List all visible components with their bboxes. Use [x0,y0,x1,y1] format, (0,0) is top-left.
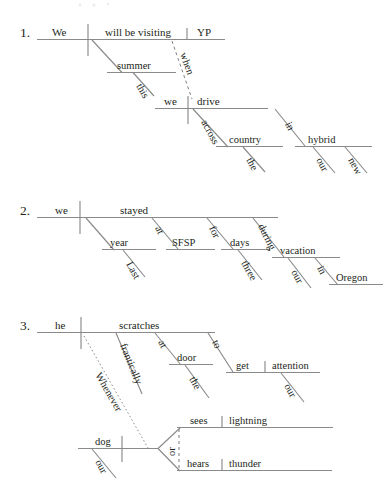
d3-obj-door: door [177,352,197,363]
d3-mod-the: the [187,375,203,392]
d2-mod-our: our [289,268,306,286]
d1-mod-this: this [134,82,151,101]
d2-prep-during: during [256,222,278,252]
sentence-diagrams-canvas: 1. We will be visiting YP summer this wh… [0,0,390,498]
d2-obj-sfsp: SFSP [172,237,196,248]
d3-mod-frantically: frantically [118,342,145,387]
d2-verb: stayed [120,204,149,216]
d1-mod-our: our [314,156,331,174]
d3-conjunction-whenever: Whenever [93,371,124,414]
diagram-3: 3. he scratches frantically at door the … [20,317,333,478]
d3-inf-verb: get [236,360,249,371]
d3-branch-a-verb: sees [190,415,208,426]
d1-conjunction-when: when [178,51,196,77]
d3-sub-subject: dog [95,436,112,447]
d1-verb: will be visiting [105,26,172,38]
d2-prep-at: at [153,224,166,236]
d2-obj-year: year [110,237,129,248]
d3-verb: scratches [119,319,159,331]
d1-mod-new: new [346,156,364,177]
d3-coord-conj: or [166,447,177,456]
d1-mod-the: the [244,156,260,173]
diagram-1-number: 1. [20,25,30,40]
d2-obj-oregon: Oregon [336,272,368,283]
d3-fork-upper [158,428,180,449]
d3-branch-a-object: lightning [229,415,268,426]
d1-prep-across: across [199,118,221,146]
d2-prep-in: in [315,264,329,277]
d3-branch-b-object: thunder [229,458,262,469]
diagram-2: 2. we stayed year Last at SFSP for days … [20,201,383,288]
d1-mod-summer: summer [117,60,151,71]
d2-mod-three: three [239,259,259,283]
diagram-3-number: 3. [20,318,30,333]
d3-inf-object: attention [272,360,309,371]
d1-object: YP [197,26,211,38]
page-top-artifact [79,3,110,7]
d3-subject: he [55,319,66,331]
d2-prep-for: for [207,224,222,240]
d3-sub-mod-our: our [93,458,110,476]
d2-obj-vacation: vacation [280,245,316,256]
d2-subject: we [55,204,68,216]
d3-mod-our: our [282,382,299,400]
d1-sub-verb: drive [197,95,220,107]
d1-subject: We [52,26,67,38]
worksheet-page: 1. We will be visiting YP summer this wh… [0,0,390,498]
d2-mod-last: Last [124,260,142,281]
d1-obj-country: country [229,134,262,145]
d1-sub-subject: we [164,95,177,107]
diagram-1: 1. We will be visiting YP summer this wh… [20,24,372,177]
d2-obj-days: days [230,237,249,248]
d3-branch-b-verb: hears [187,458,209,469]
d1-obj-hybrid: hybrid [308,134,336,145]
diagram-2-number: 2. [20,203,30,218]
